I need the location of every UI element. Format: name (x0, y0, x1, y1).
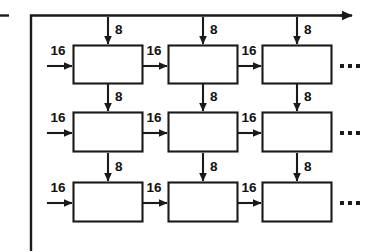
label-v-r1c3: 8 (304, 22, 312, 37)
label-v-r3c1: 8 (115, 159, 123, 174)
ellipsis-row-3 (340, 201, 360, 205)
ellipsis-row-2 (340, 131, 360, 135)
label-v-r1c1: 8 (115, 22, 123, 37)
pe-r3c3[interactable] (263, 183, 332, 222)
label-v-r3c3: 8 (304, 159, 312, 174)
pe-r1c2[interactable] (169, 46, 238, 84)
pe-r2c1[interactable] (74, 113, 143, 152)
pe-r2c2[interactable] (169, 113, 238, 152)
pe-r1c1[interactable] (74, 46, 143, 84)
diagram-canvas: 8 8 8 8 8 8 8 8 8 16 16 16 16 16 16 16 1… (0, 0, 366, 252)
label-v-r2c1: 8 (115, 89, 123, 104)
label-h-r1c2: 16 (146, 43, 162, 58)
label-v-r1c2: 8 (210, 22, 218, 37)
label-v-r2c2: 8 (210, 89, 218, 104)
label-h-r3c1: 16 (50, 180, 66, 195)
ellipsis-row-1 (340, 64, 360, 68)
label-h-r3c3: 16 (241, 180, 257, 195)
label-h-r2c2: 16 (146, 110, 162, 125)
label-v-r3c2: 8 (210, 159, 218, 174)
systolic-array-diagram: 8 8 8 8 8 8 8 8 8 16 16 16 16 16 16 16 1… (0, 0, 366, 252)
pe-r3c1[interactable] (74, 183, 143, 222)
label-h-r2c3: 16 (241, 110, 257, 125)
label-h-r3c2: 16 (146, 180, 162, 195)
label-h-r2c1: 16 (50, 110, 66, 125)
pe-r2c3[interactable] (263, 113, 332, 152)
label-h-r1c1: 16 (50, 43, 66, 58)
label-h-r1c3: 16 (241, 43, 257, 58)
pe-r1c3[interactable] (263, 46, 332, 84)
label-v-r2c3: 8 (304, 89, 312, 104)
pe-r3c2[interactable] (169, 183, 238, 222)
